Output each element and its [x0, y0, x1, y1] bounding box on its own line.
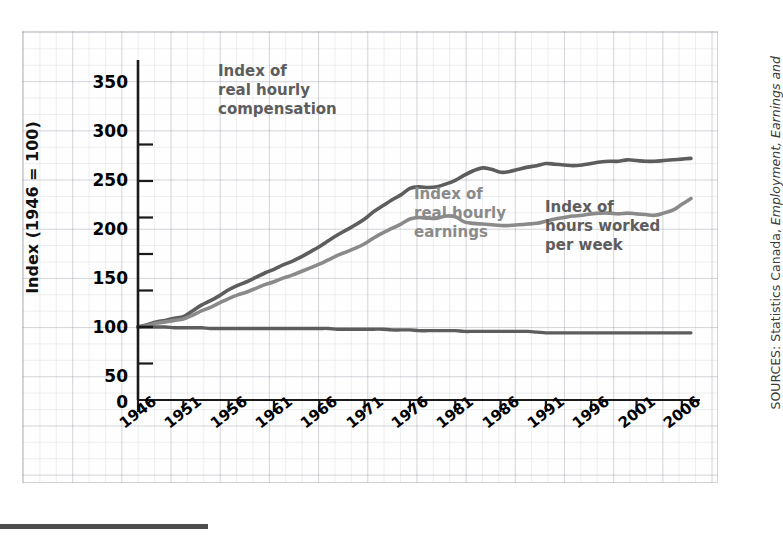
y-tick-label-250: 250: [66, 170, 128, 190]
series-line-2: [138, 327, 691, 333]
bottom-rule: [0, 524, 208, 529]
source-note: SOURCES: Statistics Canada, Employment, …: [768, 110, 783, 410]
annotation-hours-worked-per-week: Index of hours worked per week: [545, 198, 660, 256]
annotation-real-hourly-earnings: Index of real hourly earnings: [414, 185, 506, 243]
annotation-real-hourly-compensation: Index of real hourly compensation: [218, 62, 337, 120]
y-tick-label-50: 50: [66, 366, 128, 386]
y-tick-label-0: 0: [66, 392, 128, 412]
y-tick-label-100: 100: [66, 317, 128, 337]
y-tick-label-150: 150: [66, 268, 128, 288]
y-tick-label-200: 200: [66, 219, 128, 239]
source-prefix: SOURCES: Statistics Canada,: [768, 225, 783, 409]
y-tick-label-300: 300: [66, 121, 128, 141]
y-axis-title: Index (1946 = 100): [23, 58, 42, 358]
y-tick-label-350: 350: [66, 72, 128, 92]
source-publication: Employment, Earnings and: [768, 56, 783, 225]
